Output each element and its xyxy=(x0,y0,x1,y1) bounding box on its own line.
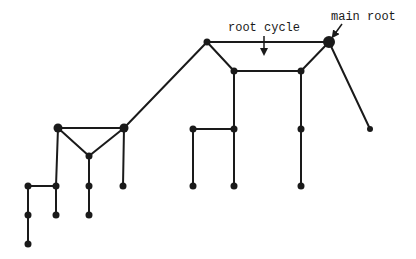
node-m2 xyxy=(231,126,238,133)
edge-t_r-l4 xyxy=(123,128,124,186)
node-m6 xyxy=(298,183,305,190)
graph-nodes xyxy=(25,36,374,248)
node-t_b xyxy=(86,153,93,160)
main-root-node xyxy=(323,36,335,48)
main-root-arrow-icon xyxy=(334,24,342,35)
node-c_br xyxy=(298,68,305,75)
edge-c_tl-t_r xyxy=(124,42,207,128)
edge-main_root-r_leaf xyxy=(329,42,370,129)
node-l1 xyxy=(25,183,32,190)
node-l5 xyxy=(25,212,32,219)
node-c_bl xyxy=(231,68,238,75)
node-m1 xyxy=(190,126,197,133)
node-l4 xyxy=(120,183,127,190)
node-m3 xyxy=(298,126,305,133)
node-m5 xyxy=(231,183,238,190)
node-c_tl xyxy=(204,39,211,46)
root-cycle-label: root cycle xyxy=(228,22,300,34)
node-l2 xyxy=(53,183,60,190)
node-l6 xyxy=(53,212,60,219)
node-l8 xyxy=(25,241,32,248)
node-t_l xyxy=(54,124,63,133)
node-r_leaf xyxy=(367,126,373,132)
node-t_r xyxy=(120,124,129,133)
edge-t_l-t_b xyxy=(58,128,89,156)
node-l3 xyxy=(86,183,93,190)
edge-c_br-main_root xyxy=(301,42,329,71)
node-m4 xyxy=(190,183,197,190)
graph-edges xyxy=(28,42,370,244)
edge-c_tl-c_bl xyxy=(207,42,234,71)
edge-t_r-t_b xyxy=(89,128,124,156)
root-cycle-graph xyxy=(0,0,416,259)
main-root-label: main root xyxy=(331,11,396,23)
edge-t_l-l2 xyxy=(56,128,58,186)
node-l7 xyxy=(86,212,93,219)
